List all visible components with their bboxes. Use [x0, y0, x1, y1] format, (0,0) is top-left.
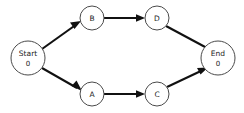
- edge-b-d[interactable]: [104, 14, 145, 22]
- node-end-label: End: [211, 49, 225, 58]
- edge-c-end-line: [167, 70, 203, 87]
- edge-start-a[interactable]: [42, 68, 82, 91]
- diagram-canvas: Start 0 B D A C End 0: [0, 0, 244, 113]
- edge-d-end-line: [166, 26, 207, 48]
- node-d-label: D: [154, 14, 160, 23]
- node-start-label: Start: [19, 49, 37, 58]
- edge-a-c-arrowhead: [136, 90, 145, 98]
- edge-start-a-line: [42, 68, 77, 88]
- node-end-value: 0: [216, 60, 220, 68]
- node-end[interactable]: End 0: [201, 41, 235, 75]
- node-a[interactable]: A: [80, 82, 104, 106]
- node-start-value: 0: [26, 60, 30, 68]
- edge-d-end[interactable]: [166, 26, 207, 48]
- edge-c-end[interactable]: [167, 68, 208, 88]
- node-c[interactable]: C: [145, 82, 169, 106]
- edge-a-c[interactable]: [104, 90, 145, 98]
- node-b-label: B: [89, 14, 94, 23]
- node-c-label: C: [154, 90, 159, 99]
- edge-b-d-arrowhead: [136, 14, 145, 22]
- edge-start-b[interactable]: [42, 21, 81, 49]
- node-b[interactable]: B: [80, 6, 104, 30]
- node-start[interactable]: Start 0: [11, 41, 45, 75]
- activity-network-graph: Start 0 B D A C End 0: [0, 0, 244, 113]
- node-a-label: A: [89, 90, 95, 99]
- node-d[interactable]: D: [145, 6, 169, 30]
- edge-start-b-line: [42, 24, 77, 49]
